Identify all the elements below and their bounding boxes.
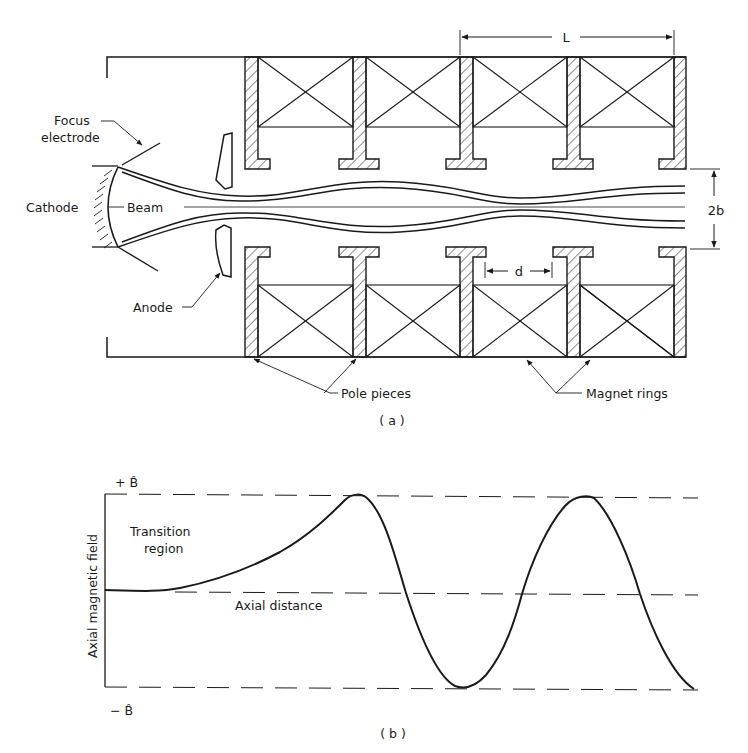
pole-piece — [245, 57, 270, 169]
part-b-field-plot: + B̂ − B̂ Axial magnetic field Transitio… — [85, 475, 698, 741]
pole-piece — [339, 247, 379, 357]
magnet-ring — [366, 285, 460, 357]
pole-pieces-bottom — [245, 247, 686, 357]
y-axis-label: Axial magnetic field — [85, 534, 100, 658]
dimension-2b-label: 2b — [708, 203, 725, 218]
pole-piece — [553, 247, 593, 357]
magnet-rings-label: Magnet rings — [586, 386, 668, 401]
transition-region-label-line1: Transition — [129, 524, 190, 539]
pole-pieces-top — [245, 57, 686, 169]
part-a-tube-cross-section: L 2b d Focus electrode Cathode Beam Anod… — [26, 30, 724, 428]
cathode-label: Cathode — [26, 200, 79, 215]
x-axis-label: Axial distance — [235, 598, 323, 613]
anode-label: Anode — [133, 300, 173, 315]
magnet-ring — [473, 57, 567, 127]
minus-b-line — [105, 687, 698, 690]
focus-electrode-label-line1: Focus — [54, 113, 90, 128]
dimension-d: d — [485, 262, 552, 279]
pole-pieces-label: Pole pieces — [341, 386, 411, 401]
pole-piece — [446, 247, 486, 357]
magnet-ring — [258, 57, 353, 127]
anode-leader — [182, 273, 220, 307]
magnet-rings-leader — [527, 360, 582, 393]
dimension-2b: 2b — [690, 169, 724, 249]
focus-electrode-label-line2: electrode — [41, 130, 100, 145]
beam-label: Beam — [127, 200, 163, 215]
magnet-ring — [580, 57, 674, 127]
magnet-ring — [258, 285, 353, 357]
pole-piece — [245, 247, 270, 357]
part-b-caption: ( b ) — [380, 726, 406, 741]
reference-lines — [105, 494, 698, 690]
zero-line — [175, 592, 698, 595]
part-a-caption: ( a ) — [379, 413, 404, 428]
dimension-L: L — [460, 30, 674, 55]
ppm-focusing-figure: L 2b d Focus electrode Cathode Beam Anod… — [0, 0, 748, 753]
pole-piece — [659, 247, 686, 357]
dimension-L-label: L — [562, 30, 570, 45]
magnet-ring — [473, 285, 567, 357]
pole-piece — [446, 57, 486, 169]
pole-piece — [339, 57, 379, 169]
pole-piece — [553, 57, 593, 169]
plus-b-line — [105, 494, 698, 498]
magnet-rings-leader-2 — [556, 360, 590, 393]
pole-piece — [659, 57, 686, 169]
focus-electrode-leader — [101, 121, 142, 145]
magnet-ring — [580, 285, 674, 357]
anode — [216, 133, 232, 277]
dimension-d-label: d — [515, 264, 523, 279]
transition-region-label-line2: region — [144, 541, 184, 556]
plus-b-label: + B̂ — [115, 475, 138, 490]
pole-pieces-leader — [254, 359, 338, 393]
magnet-ring — [366, 57, 460, 127]
minus-b-label: − B̂ — [110, 703, 133, 718]
electron-beam — [118, 167, 685, 247]
